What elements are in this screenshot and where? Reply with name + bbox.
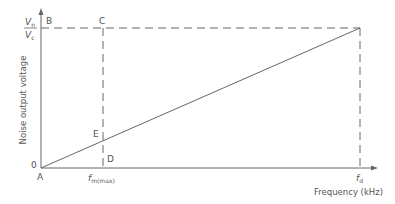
origin-value-label: 0 [31, 160, 37, 170]
vn-over-vc-label: Vn Vc [24, 17, 37, 41]
y-axis-title: Noise output voltage [18, 56, 28, 145]
point-label-d: D [107, 154, 114, 164]
y-axis [39, 8, 44, 168]
x-axis-arrow-icon [371, 166, 378, 171]
x-axis [41, 166, 378, 171]
point-label-c: C [99, 16, 105, 26]
svg-text:Vn: Vn [25, 17, 35, 28]
fd-label: fd [356, 173, 363, 184]
x-axis-title: Frequency (kHz) [314, 187, 383, 197]
point-label-b: B [46, 16, 52, 26]
fm-max-label: fm(max) [88, 173, 115, 184]
noise-triangle-diagram: Noise output voltage Vn Vc B C E D 0 A f… [0, 0, 395, 204]
point-label-e: E [93, 129, 99, 139]
point-label-a: A [37, 172, 44, 182]
svg-text:Vc: Vc [25, 30, 34, 41]
y-axis-arrow-icon [39, 8, 44, 15]
noise-ramp-line [41, 28, 360, 168]
